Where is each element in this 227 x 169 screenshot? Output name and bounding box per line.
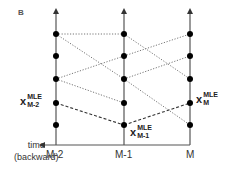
state-node xyxy=(53,31,59,37)
state-node xyxy=(53,100,59,106)
state-nodes xyxy=(53,31,193,128)
state-node xyxy=(121,31,127,37)
tick-m-2: M-2 xyxy=(46,149,63,160)
tick-m: M xyxy=(186,149,194,160)
annotation-x-mle-m-2: xMLEM-2 xyxy=(20,93,42,109)
annotation-base: x xyxy=(196,95,202,103)
annotation-sub: M-1 xyxy=(137,132,152,140)
annotation-base: x xyxy=(20,97,26,105)
state-node xyxy=(121,100,127,106)
state-node xyxy=(187,31,193,37)
state-node xyxy=(121,122,127,128)
state-node xyxy=(187,122,193,128)
mle-path xyxy=(56,103,190,125)
mle-edge xyxy=(56,103,124,125)
state-node xyxy=(53,122,59,128)
annotation-base: x xyxy=(130,128,136,136)
tick-m-1: M-1 xyxy=(115,149,132,160)
transition-edge xyxy=(124,56,190,79)
state-node xyxy=(121,53,127,59)
transition-edge xyxy=(124,34,190,79)
annotation-sup: MLE xyxy=(203,91,218,99)
mle-edge xyxy=(124,103,190,125)
state-node xyxy=(187,100,193,106)
annotation-x-mle-m-1: xMLEM-1 xyxy=(130,124,152,140)
transition-edge xyxy=(124,34,190,56)
state-node xyxy=(53,76,59,82)
annotation-x-mle-m: xMLEM xyxy=(196,91,218,107)
transition-edge xyxy=(56,56,124,79)
annotation-sub: M-2 xyxy=(27,101,42,109)
transition-edge xyxy=(56,34,124,79)
transition-edge xyxy=(56,79,124,103)
annotation-sub: M xyxy=(203,99,218,107)
transition-edge xyxy=(124,79,190,125)
state-node xyxy=(187,76,193,82)
state-node xyxy=(121,76,127,82)
annotation-sup: MLE xyxy=(27,93,42,101)
panel-label: B xyxy=(18,8,24,17)
state-node xyxy=(53,53,59,59)
state-node xyxy=(187,53,193,59)
annotation-sup: MLE xyxy=(137,124,152,132)
